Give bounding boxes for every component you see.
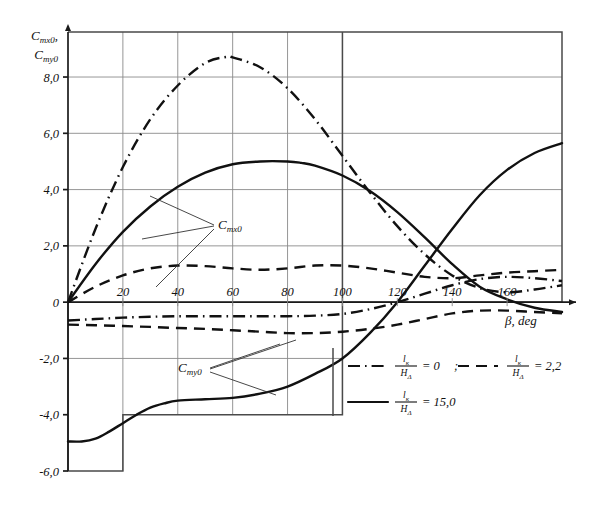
x-tick-label: 140	[443, 285, 463, 299]
curve-cmy0-3	[68, 277, 562, 321]
legend-numerator: lк	[515, 354, 522, 367]
y-axis-label-line1: Cmx0,	[31, 28, 58, 45]
legend-numerator: lк	[403, 354, 410, 367]
x-tick-label: 40	[172, 285, 185, 299]
y-tick-label: 8,0	[43, 71, 59, 85]
legend-denominator: HΔ	[400, 404, 412, 417]
y-tick-label: -4,0	[39, 408, 60, 422]
curve-cmy0-4	[68, 310, 562, 333]
y-axis-label-line2: Cmy0	[34, 47, 58, 64]
legend-separator: ;	[454, 359, 458, 373]
annotations-layer: Cmx0Cmy0	[142, 196, 296, 395]
annotation-cmy0: Cmy0	[178, 360, 202, 377]
curve-cmx0-1	[68, 265, 562, 302]
plot-frame	[65, 24, 576, 471]
x-tick-label: 20	[117, 285, 130, 299]
legend-value: = 2,2	[534, 359, 561, 373]
x-tick-label: 160	[498, 285, 518, 299]
legend-value: = 15,0	[422, 395, 456, 409]
axis-labels-layer: Cmx0,Cmy0β, deg	[31, 28, 537, 328]
chart-svg: 8,06,04,02,00-2,0-4,0-6,0204060801001201…	[0, 0, 590, 512]
legend-denominator: HΔ	[400, 368, 412, 381]
grid-layer	[68, 32, 562, 471]
y-tick-label: 6,0	[43, 127, 59, 141]
tick-labels-layer: 8,06,04,02,00-2,0-4,0-6,0204060801001201…	[39, 71, 517, 479]
y-tick-label: -6,0	[39, 465, 60, 479]
leader-line	[210, 344, 280, 368]
leader-line	[210, 372, 276, 395]
x-axis-label: β, deg	[504, 313, 537, 328]
legend-denominator: HΔ	[512, 368, 524, 381]
y-tick-label: 4,0	[43, 183, 59, 197]
y-tick-label: 0	[53, 296, 60, 310]
legend-numerator: lк	[403, 390, 410, 403]
leader-line	[210, 340, 296, 369]
x-tick-label: 80	[281, 285, 294, 299]
leader-line	[150, 196, 214, 225]
leader-line	[156, 229, 214, 287]
y-tick-label: -2,0	[39, 352, 60, 366]
y-tick-label: 2,0	[43, 239, 59, 253]
legend-value: = 0	[422, 359, 441, 373]
figure-root: 8,06,04,02,00-2,0-4,0-6,0204060801001201…	[0, 0, 590, 512]
annotation-cmx0: Cmx0	[218, 217, 242, 234]
x-tick-label: 100	[333, 285, 353, 299]
x-tick-label: 120	[388, 285, 408, 299]
curves-layer	[68, 56, 562, 442]
x-tick-label: 60	[226, 285, 239, 299]
legend-layer: lкHΔ= 0;lкHΔ= 2,2lкHΔ= 15,0	[333, 348, 561, 417]
